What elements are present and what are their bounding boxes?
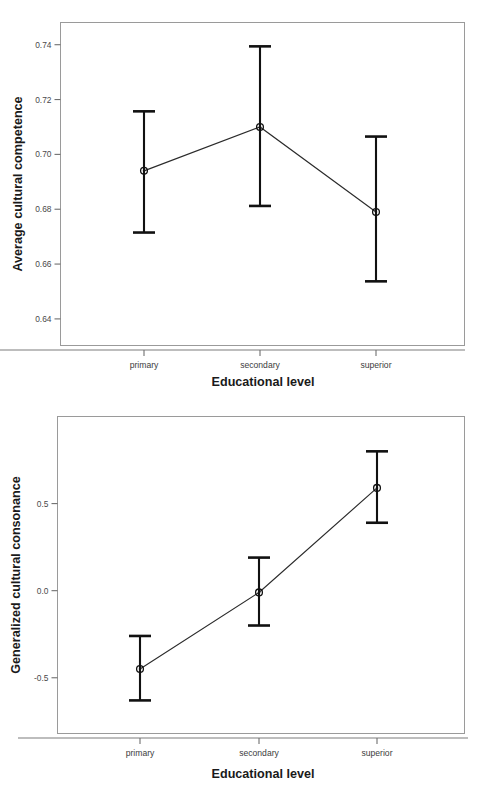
chart-panel-top: 0.740.720.700.680.660.64 primarysecondar… <box>0 0 486 395</box>
x-axis-top: primarysecondarysuperior <box>0 350 465 370</box>
y-axis-title-top: Average cultural competence <box>11 96 25 271</box>
x-axis-title-bottom: Educational level <box>212 767 315 781</box>
x-axis-bottom: primarysecondarysuperior <box>18 738 468 758</box>
x-axis-title-top: Educational level <box>212 375 315 389</box>
x-tick-label: primary <box>130 360 159 370</box>
x-tick-label: primary <box>126 748 155 758</box>
y-tick-label: 0.68 <box>35 204 52 214</box>
chart-bottom-canvas: 0.50.0-0.5 primarysecondarysuperior Gene… <box>0 395 486 790</box>
y-tick-label: 0.0 <box>37 586 49 596</box>
error-bar-chart-bottom: 0.50.0-0.5 primarysecondarysuperior Gene… <box>0 395 486 790</box>
data-point-center <box>259 126 262 129</box>
y-axis-ticks-top: 0.740.720.700.680.660.64 <box>35 40 60 324</box>
data-point-center <box>139 668 142 671</box>
data-point-center <box>143 170 146 173</box>
x-tick-label: superior <box>360 360 391 370</box>
plot-frame-bottom <box>58 417 465 734</box>
y-tick-label: 0.72 <box>35 95 52 105</box>
data-point-center <box>376 487 379 490</box>
data-point-center <box>258 591 261 594</box>
y-tick-label: 0.66 <box>35 259 52 269</box>
y-tick-label: 0.5 <box>37 499 49 509</box>
error-bar-chart-top: 0.740.720.700.680.660.64 primarysecondar… <box>0 0 486 395</box>
data-point-center <box>375 211 378 214</box>
x-tick-label: secondary <box>239 748 279 758</box>
y-tick-label: 0.70 <box>35 149 52 159</box>
chart-panel-bottom: 0.50.0-0.5 primarysecondarysuperior Gene… <box>0 395 486 790</box>
y-tick-label: 0.74 <box>35 40 52 50</box>
y-axis-ticks-bottom: 0.50.0-0.5 <box>34 499 57 683</box>
y-tick-label: 0.64 <box>35 314 52 324</box>
chart-top-canvas: 0.740.720.700.680.660.64 primarysecondar… <box>0 0 486 395</box>
y-tick-label: -0.5 <box>34 673 49 683</box>
y-axis-title-bottom: Generalized cultural consonance <box>9 476 23 673</box>
x-tick-label: superior <box>361 748 392 758</box>
plot-frame-top <box>61 23 465 346</box>
x-tick-label: secondary <box>240 360 280 370</box>
